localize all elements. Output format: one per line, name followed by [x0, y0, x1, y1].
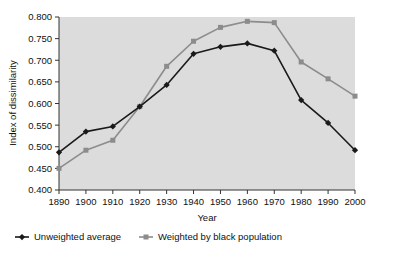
x-axis-tick-label: 1890 — [48, 196, 69, 207]
legend-label: Weighted by black population — [158, 231, 282, 242]
x-axis-tick-label: 1960 — [237, 196, 258, 207]
y-axis-tick-label: 0.650 — [28, 76, 52, 87]
x-axis-tick-label: 1940 — [183, 196, 204, 207]
y-axis-tick-label: 0.600 — [28, 98, 52, 109]
x-axis-tick-label: 1910 — [102, 196, 123, 207]
dissimilarity-line-chart: 0.4000.4500.5000.5500.6000.6500.7000.750… — [0, 0, 400, 254]
x-axis-tick-label: 1920 — [129, 196, 150, 207]
x-axis-tick-label: 1950 — [210, 196, 231, 207]
data-point-marker — [83, 148, 88, 153]
legend-item-weighted-by-black-population: Weighted by black population — [139, 231, 282, 242]
x-axis-tick-label: 1970 — [264, 196, 285, 207]
data-point-marker — [245, 19, 250, 24]
chart-figure: 0.4000.4500.5000.5500.6000.6500.7000.750… — [0, 0, 400, 254]
data-point-marker — [353, 94, 358, 99]
y-axis-tick-labels: 0.4000.4500.5000.5500.6000.6500.7000.750… — [28, 11, 52, 195]
x-axis-tick-label: 1980 — [291, 196, 312, 207]
data-point-marker — [218, 25, 223, 30]
x-axis-tick-label: 1930 — [156, 196, 177, 207]
x-axis-tick-label: 2000 — [344, 196, 365, 207]
x-axis-title: Year — [197, 212, 216, 223]
data-point-marker — [299, 59, 304, 64]
data-point-marker — [326, 76, 331, 81]
y-axis-tick-label: 0.700 — [28, 55, 52, 66]
y-axis-tick-label: 0.450 — [28, 163, 52, 174]
data-point-marker — [57, 166, 62, 171]
x-axis-tick-label: 1900 — [75, 196, 96, 207]
y-axis-tick-label: 0.400 — [28, 184, 52, 195]
plot-area-background — [59, 17, 355, 190]
legend-marker-symbol — [144, 235, 149, 240]
x-axis-tick-label: 1990 — [318, 196, 339, 207]
y-axis-tick-label: 0.500 — [28, 141, 52, 152]
data-point-marker — [191, 39, 196, 44]
data-point-marker — [272, 20, 277, 25]
legend-label: Unweighted average — [34, 231, 121, 242]
y-axis-title: Index of dissimilarity — [7, 60, 18, 146]
y-axis-tick-label: 0.550 — [28, 120, 52, 131]
y-axis-tick-label: 0.800 — [28, 11, 52, 22]
y-axis-tick-label: 0.750 — [28, 33, 52, 44]
data-point-marker — [164, 64, 169, 69]
data-point-marker — [110, 138, 115, 143]
